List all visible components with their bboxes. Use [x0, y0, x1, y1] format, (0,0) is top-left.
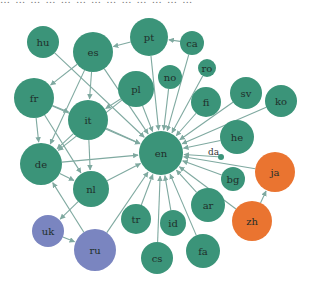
node-cs: cs	[141, 242, 173, 274]
edge-id-en	[165, 176, 171, 211]
node-ca: ca	[180, 31, 204, 55]
edge-nl-uk	[60, 202, 78, 220]
edge-no-en	[164, 89, 169, 130]
node-ja: ja	[255, 152, 295, 192]
node-id: id	[160, 210, 186, 236]
node-fi: fi	[191, 87, 221, 117]
node-fr: fr	[14, 78, 54, 118]
node-layer: enhuesptcaronoplfritfisvkohedabgdenlartr…	[14, 18, 297, 274]
node-label: no	[164, 72, 176, 83]
node-label: zh	[246, 216, 258, 227]
node-no: no	[158, 65, 182, 89]
edge-es-fr	[51, 64, 78, 85]
node-ko: ko	[265, 85, 297, 117]
node-uk: uk	[32, 215, 64, 247]
node-es: es	[73, 32, 113, 72]
node-da: da	[208, 147, 224, 160]
node-label: ro	[202, 63, 213, 74]
node-sv: sv	[230, 77, 262, 109]
node-it: it	[68, 100, 108, 140]
node-label: en	[155, 148, 168, 159]
node-label: uk	[42, 226, 55, 237]
node-tr: tr	[121, 204, 151, 234]
node-bg: bg	[221, 167, 245, 191]
node-label: fi	[203, 97, 210, 108]
edge-nl-en	[107, 164, 141, 181]
node-label: cs	[152, 253, 163, 264]
edge-cs-en	[158, 176, 161, 242]
node-ro: ro	[198, 59, 216, 77]
node-label: he	[231, 132, 243, 143]
edge-it-de	[57, 134, 73, 149]
edge-de-nl	[60, 173, 74, 180]
edge-uk-ru	[63, 237, 75, 242]
node-label: fa	[198, 246, 208, 257]
node-label: fr	[30, 93, 39, 104]
node-ar: ar	[191, 188, 225, 222]
node-label: nl	[86, 184, 96, 195]
language-network-graph: enhuesptcaronoplfritfisvkohedabgdenlartr…	[0, 0, 309, 287]
node-pt: pt	[130, 18, 168, 56]
node-nl: nl	[73, 171, 109, 207]
edge-fi-en	[176, 113, 196, 136]
node-label: ko	[275, 96, 287, 107]
edge-it-en	[106, 128, 140, 143]
edge-it-nl	[89, 140, 90, 170]
node-label: id	[168, 218, 178, 229]
edge-bg-en	[183, 161, 222, 175]
node-label: hu	[37, 37, 50, 48]
node-label: es	[87, 47, 98, 58]
edge-fr-de	[36, 118, 39, 142]
node-label: ru	[89, 245, 101, 256]
node-fa: fa	[186, 234, 220, 268]
node-label: pl	[131, 84, 141, 95]
node-label: de	[35, 159, 47, 170]
node-zh: zh	[232, 201, 272, 241]
edge-zh-ja	[260, 191, 266, 203]
node-en: en	[139, 131, 183, 175]
node-he: he	[220, 120, 254, 154]
node-label: it	[84, 115, 91, 126]
node-de: de	[20, 143, 62, 185]
node-label: ar	[203, 200, 214, 211]
node-label: ja	[269, 167, 279, 178]
node-label: sv	[241, 88, 252, 99]
node-label: ca	[186, 38, 198, 49]
node-label: bg	[227, 174, 240, 185]
edge-pt-es	[113, 42, 130, 47]
node-ru: ru	[74, 229, 116, 271]
node-hu: hu	[27, 26, 59, 58]
node-pl: pl	[118, 71, 154, 107]
edge-ca-pt	[169, 40, 180, 42]
node-label: da	[208, 147, 220, 157]
node-label: tr	[132, 214, 141, 225]
edge-ar-en	[176, 170, 196, 192]
node-label: pt	[144, 32, 154, 43]
